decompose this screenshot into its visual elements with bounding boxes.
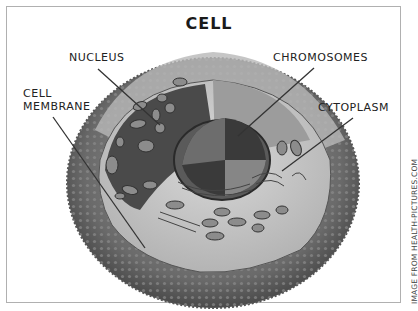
label-nucleus: NUCLEUS <box>69 51 125 64</box>
label-cell-membrane-line2: MEMBRANE <box>23 100 90 113</box>
image-credit: IMAGE FROM HEALTH-PICTURES.COM <box>410 159 418 304</box>
label-chromosomes: CHROMOSOMES <box>273 51 368 64</box>
nucleus <box>174 118 270 200</box>
label-cell-membrane-line1: CELL <box>23 87 90 100</box>
label-cell-membrane: CELL MEMBRANE <box>23 87 90 113</box>
cell-illustration <box>0 0 418 311</box>
label-cytoplasm: CYTOPLASM <box>318 101 389 114</box>
